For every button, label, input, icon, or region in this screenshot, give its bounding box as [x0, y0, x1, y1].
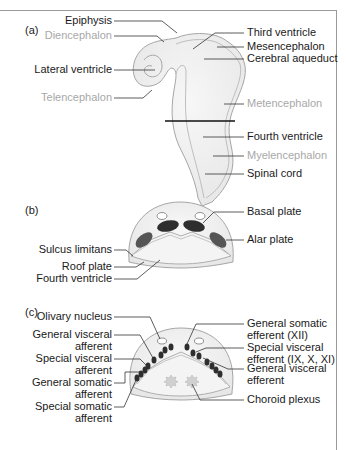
label-special-visceral-afferent-2: afferent — [75, 364, 112, 376]
label-metencephalon: Metencephalon — [247, 97, 322, 109]
label-third-ventricle: Third ventricle — [247, 26, 316, 38]
label-epiphysis: Epiphysis — [65, 14, 113, 26]
label-general-somatic-efferent: General somatic — [247, 317, 328, 329]
label-spinal-cord: Spinal cord — [247, 167, 302, 179]
panel-a: (a) Epiphysis Diencephalon Lateral ventr… — [25, 14, 338, 206]
label-general-visceral-efferent: General visceral — [247, 362, 326, 374]
panel-b-tag: (b) — [25, 204, 38, 216]
label-choroid-plexus: Choroid plexus — [247, 393, 321, 405]
label-diencephalon: Diencephalon — [45, 29, 112, 41]
label-general-somatic-afferent: General somatic — [32, 376, 113, 388]
label-telencephalon: Telencephalon — [41, 91, 112, 103]
olivary-nucleus-left — [158, 338, 167, 344]
label-olivary-nucleus: Olivary nucleus — [37, 310, 113, 322]
panel-c: (c) — [25, 306, 335, 424]
label-lateral-ventricle: Lateral ventricle — [34, 63, 112, 75]
label-special-visceral-efferent: Special visceral — [247, 341, 323, 353]
label-fourth-ventricle: Fourth ventricle — [247, 130, 323, 142]
label-roof-plate: Roof plate — [62, 260, 112, 272]
label-myelencephalon: Myelencephalon — [247, 149, 327, 161]
basal-vesicle-left — [157, 213, 167, 220]
label-mesencephalon: Mesencephalon — [247, 40, 325, 52]
label-special-somatic-afferent-2: afferent — [75, 412, 112, 424]
label-general-somatic-efferent-2: efferent (XII) — [247, 329, 308, 341]
label-alar-plate: Alar plate — [247, 233, 293, 245]
panel-a-tag: (a) — [25, 24, 38, 36]
label-general-somatic-afferent-2: afferent — [75, 388, 112, 400]
label-special-somatic-afferent: Special somatic — [35, 400, 113, 412]
olivary-nucleus-right — [195, 338, 204, 344]
label-cerebral-aqueduct: Cerebral aqueduct — [247, 52, 338, 64]
label-fourth-ventricle-b: Fourth ventricle — [36, 272, 112, 284]
label-general-visceral-afferent-2: afferent — [75, 340, 112, 352]
label-general-visceral-efferent-2: efferent — [247, 374, 284, 386]
label-sulcus-limitans: Sulcus limitans — [39, 243, 113, 255]
panel-b: (b) Basal plate Alar plate Sulcus limita… — [25, 202, 301, 284]
label-special-visceral-afferent: Special visceral — [36, 352, 112, 364]
basal-vesicle-right — [195, 213, 205, 220]
label-basal-plate: Basal plate — [247, 205, 301, 217]
label-general-visceral-afferent: General visceral — [33, 328, 112, 340]
